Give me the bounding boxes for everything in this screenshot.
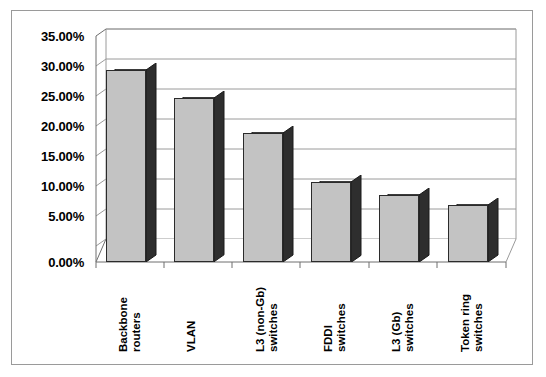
bar-side-face — [419, 188, 430, 262]
bar-front-face — [243, 133, 283, 262]
bar-side-face — [283, 126, 294, 262]
bar-side-face — [488, 198, 499, 262]
bar-side-face — [146, 63, 157, 262]
x-tick-label: L3 (Gb) switches — [390, 303, 416, 352]
bar-front-face — [311, 182, 351, 262]
bar-front-face — [106, 70, 146, 262]
y-tick-label: 0.00% — [12, 255, 84, 270]
bar-side-face — [351, 175, 362, 262]
y-tick-label: 35.00% — [12, 29, 84, 44]
y-tick-label: 5.00% — [12, 209, 84, 224]
bar-side-face — [214, 91, 225, 262]
bar-front-face — [174, 98, 214, 262]
y-axis-labels: 35.00% 30.00% 25.00% 20.00% 15.00% 10.00… — [0, 0, 84, 377]
x-tick-label: FDDI switches — [322, 303, 348, 352]
bar-column — [448, 198, 498, 262]
bar-chart: 35.00% 30.00% 25.00% 20.00% 15.00% 10.00… — [0, 0, 546, 377]
x-tick-label: L3 (non-Gb) switches — [254, 287, 280, 352]
y-tick-label: 10.00% — [12, 179, 84, 194]
bar-column — [311, 175, 361, 262]
y-tick-label: 30.00% — [12, 59, 84, 74]
bar-column — [379, 188, 429, 262]
x-tick-label: VLAN — [185, 321, 198, 352]
y-tick-label: 15.00% — [12, 149, 84, 164]
bar-column — [106, 63, 156, 262]
x-tick-label: Token ring switches — [459, 294, 485, 352]
bar-front-face — [448, 205, 488, 262]
x-tick-label: Backbone routers — [117, 297, 143, 352]
y-tick-label: 25.00% — [12, 89, 84, 104]
bar-column — [174, 91, 224, 262]
bar-front-face — [379, 195, 419, 262]
y-tick-label: 20.00% — [12, 119, 84, 134]
bar-column — [243, 126, 293, 262]
